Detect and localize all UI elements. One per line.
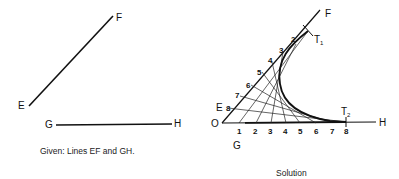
oh-tick-7: 7 [330,127,335,136]
oh-tick-4: 4 [283,127,288,136]
of-tick-6: 6 [246,81,251,90]
label-h-solution: H [379,117,386,128]
line-ef [29,16,113,106]
oh-tick-numbers: 1 2 3 4 5 6 7 8 [237,127,349,136]
oh-tick-8: 8 [344,127,349,136]
construction-lines [228,31,346,123]
of-tick-4: 4 [268,56,273,65]
of-tick-8: 8 [226,104,231,113]
diagram-canvas: E F G H Given: Lines EF and GH. O [0,0,399,179]
oh-tick-1: 1 [237,127,242,136]
of-tick-7: 7 [235,91,240,100]
label-f-solution: F [325,8,331,19]
line-gh [56,124,172,125]
label-g-solution: G [233,140,241,151]
of-tick-3: 3 [279,46,284,55]
given-figure: E F G H Given: Lines EF and GH. [18,12,181,156]
oh-tick-6: 6 [314,127,319,136]
of-tick-5: 5 [257,68,262,77]
label-t1: T1 [314,34,324,46]
label-g: G [45,119,53,130]
label-e: E [18,100,25,111]
label-e-solution: E [216,102,223,113]
oh-tick-5: 5 [298,127,303,136]
oh-tick-2: 2 [253,127,258,136]
line-gh-thick [245,122,346,123]
label-h: H [174,118,181,129]
oh-tick-3: 3 [268,127,273,136]
label-t2: T2 [341,106,351,118]
of-tick-numbers: 8 7 6 5 4 3 2 [226,35,296,113]
solution-figure: O E F G H T1 T2 1 2 3 4 5 6 7 8 8 7 6 5 … [211,8,386,178]
solution-caption: Solution [276,168,307,178]
of-tick-2: 2 [291,35,296,44]
given-caption: Given: Lines EF and GH. [40,146,135,156]
label-o: O [211,118,219,129]
label-f: F [116,12,122,23]
